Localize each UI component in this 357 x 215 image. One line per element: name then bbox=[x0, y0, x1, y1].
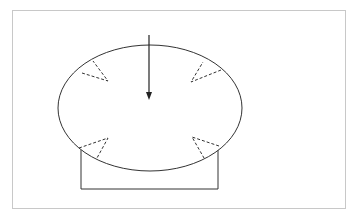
ellipse-body bbox=[58, 45, 242, 171]
diagram-canvas bbox=[0, 0, 357, 215]
